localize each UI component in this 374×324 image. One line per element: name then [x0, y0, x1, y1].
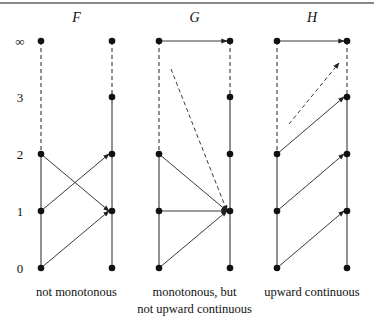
mapping-arrow [277, 97, 344, 154]
mapping-arrow [41, 211, 109, 268]
level-label: 3 [17, 90, 24, 105]
diagram-figure: ∞3210 Fnot monotonousGmonotonous, butnot… [0, 0, 374, 324]
level-dot [38, 151, 45, 158]
mapping-arrow [159, 154, 227, 211]
level-dot [109, 208, 116, 215]
level-labels: ∞3210 [15, 34, 24, 276]
panel-caption: not upward continuous [137, 302, 252, 316]
level-dot [156, 38, 163, 45]
panels: Fnot monotonousGmonotonous, butnot upwar… [36, 10, 360, 316]
level-dot [156, 151, 163, 158]
level-dot [109, 94, 116, 101]
mapping-arrow [159, 211, 227, 268]
level-dot [109, 38, 116, 45]
level-dot [227, 151, 234, 158]
level-dot [274, 208, 281, 215]
panel-caption: not monotonous [36, 285, 117, 299]
level-dot [344, 94, 351, 101]
level-label: 0 [17, 261, 24, 276]
level-dot [344, 265, 351, 272]
level-dot [38, 208, 45, 215]
panel-title: G [189, 10, 199, 25]
level-dot [156, 208, 163, 215]
panel-h: Hupward continuous [264, 10, 360, 299]
level-dot [109, 151, 116, 158]
level-dot [274, 151, 281, 158]
level-dot [109, 265, 116, 272]
level-dot [227, 38, 234, 45]
panel-title: H [306, 10, 318, 25]
mapping-arrow [277, 154, 344, 211]
level-dot [227, 94, 234, 101]
panel-g: Gmonotonous, butnot upward continuous [137, 10, 252, 316]
panel-caption: monotonous, but [152, 285, 237, 299]
level-dot [227, 208, 234, 215]
function-diagrams: ∞3210 Fnot monotonousGmonotonous, butnot… [0, 0, 374, 324]
panel-f: Fnot monotonous [36, 10, 117, 299]
panel-title: F [71, 10, 81, 25]
level-dot [274, 38, 281, 45]
level-dot [38, 38, 45, 45]
level-dot [38, 265, 45, 272]
level-dot [274, 265, 281, 272]
level-label: 2 [17, 147, 24, 162]
level-label: 1 [17, 204, 24, 219]
mapping-arrow [171, 69, 227, 211]
level-dot [344, 38, 351, 45]
level-dot [344, 151, 351, 158]
mapping-arrow [277, 211, 344, 268]
panel-caption: upward continuous [264, 285, 360, 299]
level-label: ∞ [15, 34, 24, 49]
level-dot [344, 208, 351, 215]
level-dot [156, 265, 163, 272]
level-dot [227, 265, 234, 272]
mapping-arrow [289, 63, 339, 124]
